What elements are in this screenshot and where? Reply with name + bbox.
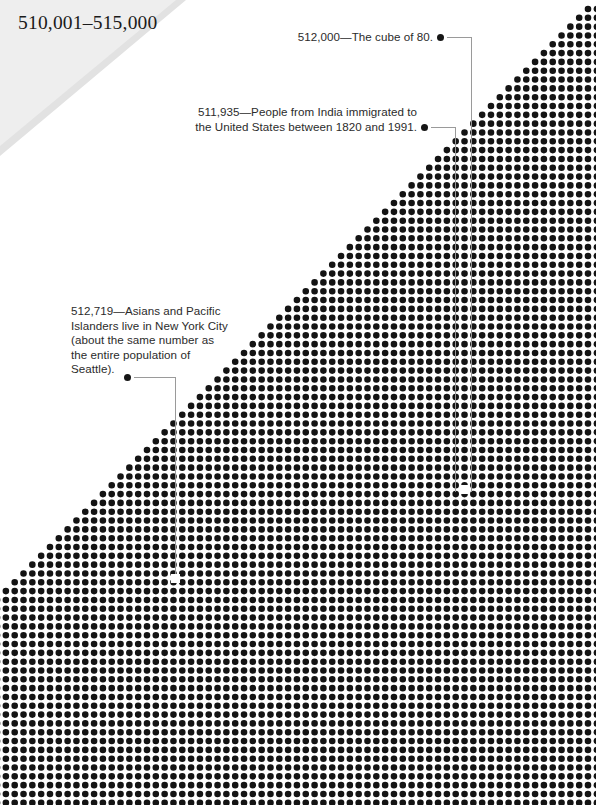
annotation-asians-pacific-islanders-nyc: 512,719—Asians and Pacific Islanders liv… [71,304,251,377]
annotation-bullet-india-immigration [421,124,428,131]
annotation-line: the entire population of [71,348,251,363]
page-title: 510,001–515,000 [18,11,158,35]
annotation-line: 512,719—Asians and Pacific [71,304,251,319]
leader-line-nyc-horizontal [134,377,175,378]
annotation-line: 511,935—People from India immigrated to [110,105,417,120]
annotation-cube-of-80: 512,000—The cube of 80. [190,30,433,45]
annotation-line: the United States between 1820 and 1991. [110,120,417,135]
annotation-bullet-asians-pacific-islanders-nyc [124,374,131,381]
annotation-line: 512,000—The cube of 80. [190,30,433,45]
infographic-page: 510,001–515,000 512,000—The cube of 80. … [0,0,596,805]
annotation-bullet-cube-of-80 [437,34,444,41]
leader-line-cube-of-80-vertical [471,37,472,492]
annotation-line: Islanders live in New York City [71,319,251,334]
target-marker-cube-of-80 [460,485,469,494]
annotation-line: (about the same number as [71,333,251,348]
leader-line-india-vertical [455,127,456,492]
annotation-india-immigration: 511,935—People from India immigrated to … [110,105,417,134]
annotation-line: Seattle). [71,362,251,377]
leader-line-cube-of-80-horizontal [447,37,472,38]
target-marker-nyc [171,574,180,583]
leader-line-india-horizontal [431,127,456,128]
leader-line-nyc-vertical [175,377,176,581]
